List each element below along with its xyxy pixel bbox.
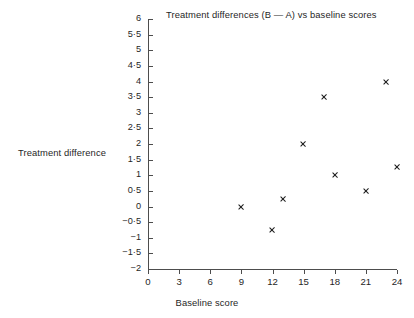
y-tick-label: 3·5 [128,93,141,102]
x-tick-label: 21 [361,277,372,287]
x-tick-label: 0 [145,277,150,287]
data-point [321,94,328,101]
data-point [300,141,307,148]
data-point [279,195,286,202]
data-point [362,187,369,194]
y-tick-label: 1·5 [128,155,141,164]
y-tick-label: 0 [136,202,141,211]
plot-area: 65·554·543·532·521·510·50−0·5−1−1·5−2 03… [148,19,397,270]
x-tick-mark [148,270,149,274]
y-tick-mark [149,269,153,270]
x-tick-label: 24 [392,277,403,287]
y-tick-mark [149,66,153,67]
x-tick-mark [210,270,211,274]
x-tick-label: 18 [329,277,340,287]
x-tick-label: 9 [239,277,244,287]
y-tick-label: −0·5 [122,218,141,227]
x-tick-mark [179,270,180,274]
y-tick-mark [149,82,153,83]
x-axis-label: Baseline score [0,297,414,308]
y-tick-mark [149,50,153,51]
y-tick-label: −1 [131,233,141,242]
x-tick-mark [335,270,336,274]
x-tick-mark [366,270,367,274]
x-tick-label: 3 [176,277,181,287]
x-tick-label: 15 [298,277,309,287]
data-point [269,226,276,233]
y-tick-mark [149,175,153,176]
y-tick-mark [149,128,153,129]
y-tick-mark [149,97,153,98]
y-tick-mark [149,222,153,223]
y-tick-mark [149,113,153,114]
y-tick-label: 3 [136,108,141,117]
y-tick-mark [149,144,153,145]
y-tick-mark [149,207,153,208]
y-tick-label: 2 [136,139,141,148]
y-tick-mark [149,191,153,192]
y-tick-mark [149,253,153,254]
data-point [394,164,401,171]
y-axis-label: Treatment difference [18,147,106,158]
y-tick-mark [149,160,153,161]
data-point [238,203,245,210]
x-tick-mark [397,270,398,274]
x-tick-mark [273,270,274,274]
x-tick-label: 6 [208,277,213,287]
y-tick-mark [149,35,153,36]
y-tick-label: 1 [136,171,141,180]
y-tick-label: 4 [136,77,141,86]
x-tick-label: 12 [267,277,278,287]
y-tick-label: 4·5 [128,61,141,70]
data-point [331,172,338,179]
y-tick-label: 5 [136,46,141,55]
y-tick-label: −2 [131,264,141,273]
y-tick-label: 0·5 [128,186,141,195]
data-point [383,78,390,85]
x-tick-mark [304,270,305,274]
y-tick-label: 5·5 [128,30,141,39]
y-tick-label: 6 [136,14,141,23]
y-tick-label: 2·5 [128,124,141,133]
scatter-plot-figure: Treatment differences (B — A) vs baselin… [0,0,414,318]
y-tick-label: −1·5 [122,249,141,258]
y-tick-mark [149,19,153,20]
y-tick-mark [149,238,153,239]
x-tick-mark [241,270,242,274]
